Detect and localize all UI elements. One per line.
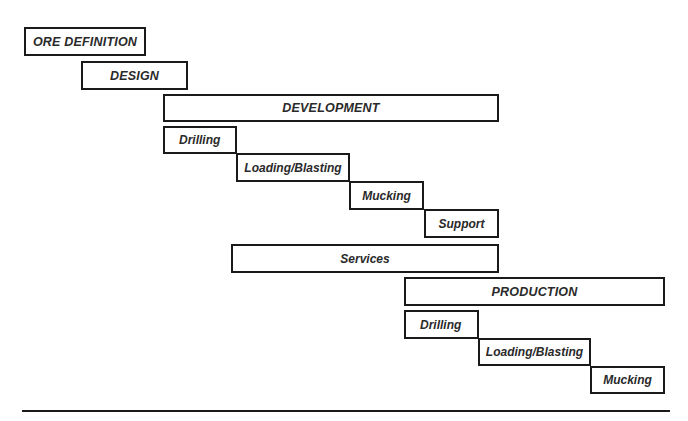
development-support-box: Support	[424, 209, 499, 238]
development-mucking-label: Mucking	[362, 189, 411, 203]
development-drilling-label: Drilling	[179, 133, 220, 147]
development-label: DEVELOPMENT	[282, 101, 379, 115]
development-support-label: Support	[439, 217, 485, 231]
production-drilling-label: Drilling	[420, 318, 461, 332]
development-loading-blasting-label: Loading/Blasting	[244, 161, 341, 175]
development-loading-blasting-box: Loading/Blasting	[236, 153, 350, 182]
production-loading-blasting-label: Loading/Blasting	[486, 345, 583, 359]
production-loading-blasting-box: Loading/Blasting	[478, 338, 591, 366]
services-box: Services	[231, 244, 499, 273]
development-box: DEVELOPMENT	[163, 94, 499, 122]
production-mucking-label: Mucking	[603, 373, 652, 387]
design-box: DESIGN	[81, 61, 188, 90]
design-label: DESIGN	[110, 69, 159, 83]
timeline-baseline	[22, 410, 670, 412]
production-label: PRODUCTION	[491, 285, 577, 299]
production-mucking-box: Mucking	[590, 366, 665, 394]
mining-phases-diagram: ORE DEFINITION DESIGN DEVELOPMENT Drilli…	[0, 0, 688, 421]
development-drilling-box: Drilling	[163, 126, 237, 154]
services-label: Services	[340, 252, 389, 266]
ore-definition-label: ORE DEFINITION	[33, 35, 137, 49]
development-mucking-box: Mucking	[349, 181, 424, 210]
ore-definition-box: ORE DEFINITION	[24, 27, 146, 56]
production-box: PRODUCTION	[404, 277, 665, 306]
production-drilling-box: Drilling	[404, 310, 479, 339]
